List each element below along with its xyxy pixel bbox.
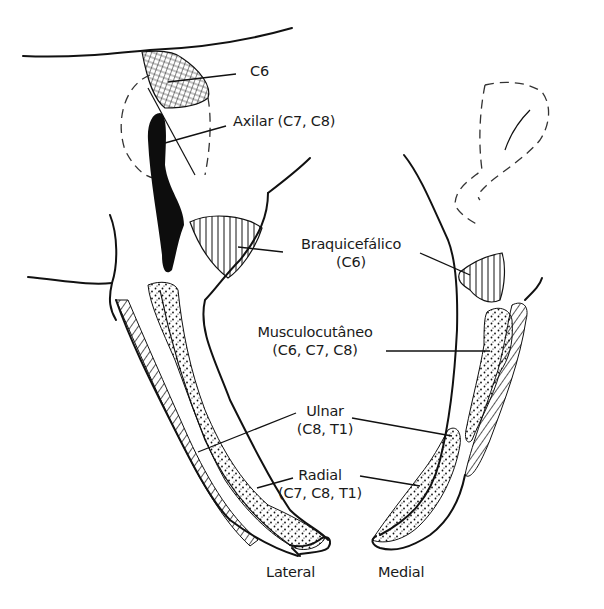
ulnar-label: Ulnar (C8, T1) bbox=[290, 402, 360, 438]
braquicefalico-zone bbox=[190, 216, 262, 278]
c6-label: C6 bbox=[250, 62, 269, 80]
musculocutaneo-label: Musculocutâneo (C6, C7, C8) bbox=[245, 323, 385, 359]
ulnar-name: Ulnar bbox=[290, 402, 360, 420]
ulnar-roots: (C8, T1) bbox=[290, 420, 360, 438]
axilar-label: Axilar (C7, C8) bbox=[233, 112, 335, 130]
musculocutaneo-roots: (C6, C7, C8) bbox=[245, 341, 385, 359]
radial-roots: (C7, C8, T1) bbox=[265, 484, 375, 502]
diagram-drawing bbox=[0, 0, 604, 609]
braquicefalico-zone-medial bbox=[459, 253, 505, 302]
ulnar-zone-lateral bbox=[116, 300, 258, 546]
radial-name: Radial bbox=[265, 466, 375, 484]
medial-view-label: Medial bbox=[378, 563, 424, 581]
c6-zone bbox=[142, 51, 209, 108]
radial-label: Radial (C7, C8, T1) bbox=[265, 466, 375, 502]
braquicefalico-name: Braquicefálico bbox=[286, 235, 416, 253]
lateral-view-label: Lateral bbox=[266, 563, 315, 581]
nerve-diagram: C6 Axilar (C7, C8) Braquicefálico (C6) M… bbox=[0, 0, 604, 609]
braquicefalico-roots: (C6) bbox=[286, 253, 416, 271]
musculocutaneo-name: Musculocutâneo bbox=[245, 323, 385, 341]
axilar-zone bbox=[148, 113, 184, 272]
medial-limb bbox=[372, 82, 549, 549]
braquicefalico-label: Braquicefálico (C6) bbox=[286, 235, 416, 271]
